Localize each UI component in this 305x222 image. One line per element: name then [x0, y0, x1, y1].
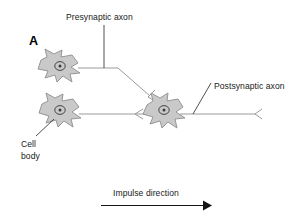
impulse-direction-label: Impulse direction — [113, 188, 179, 198]
postsynaptic-neuron-nucleolus — [163, 109, 166, 112]
upper-neuron-nucleolus — [59, 65, 62, 68]
neuron-synapse-figure: A Presynaptic axon — [0, 0, 305, 222]
panel-letter: A — [29, 34, 38, 48]
presynaptic-axon-label: Presynaptic axon — [66, 12, 133, 22]
diagram-canvas: A Presynaptic axon — [0, 0, 305, 222]
lower-neuron-nucleolus — [59, 109, 62, 112]
cell-body-label-line2: body — [21, 151, 40, 161]
postsynaptic-axon-label: Postsynaptic axon — [214, 81, 285, 91]
cell-body-label-line1: Cell — [21, 139, 36, 149]
